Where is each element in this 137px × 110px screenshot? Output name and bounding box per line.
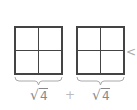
radical-sign: √	[92, 87, 101, 103]
underbrace-right	[76, 76, 125, 86]
grid-cell	[16, 28, 39, 51]
grid-cell	[101, 28, 124, 51]
underbrace-left	[14, 76, 63, 86]
sqrt-label-right: √4	[92, 87, 110, 104]
square-grid-right	[76, 26, 125, 75]
plus-operator: +	[65, 87, 75, 103]
sqrt-label-left: √4	[30, 87, 48, 104]
grid-cell	[16, 51, 39, 74]
radical-sign: √	[30, 87, 39, 103]
pointer-arrow-icon: <	[126, 46, 136, 58]
grid-cell	[39, 28, 62, 51]
square-grid-left	[14, 26, 63, 75]
radicand: 4	[101, 88, 110, 103]
radicand: 4	[39, 88, 48, 103]
grid-cell	[101, 51, 124, 74]
grid-cell	[78, 51, 101, 74]
grid-cell	[39, 51, 62, 74]
grid-cell	[78, 28, 101, 51]
